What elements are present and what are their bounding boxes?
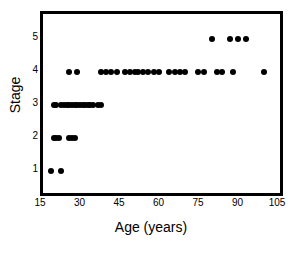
x-axis-tick-labels: 153045607590105 <box>40 197 283 211</box>
plot-canvas <box>43 14 280 193</box>
x-tick-label: 75 <box>192 197 203 209</box>
data-point <box>230 69 236 75</box>
data-point <box>72 135 78 141</box>
data-point <box>201 69 207 75</box>
x-tick-label: 30 <box>74 197 85 209</box>
x-tick-label: 45 <box>113 197 124 209</box>
data-point <box>58 168 64 174</box>
y-axis-title: Stage <box>7 55 23 135</box>
data-point <box>219 69 225 75</box>
data-point <box>209 36 215 42</box>
data-point <box>66 69 72 75</box>
data-point <box>48 168 54 174</box>
data-point <box>227 36 233 42</box>
x-tick-label: 15 <box>34 197 45 209</box>
data-point <box>261 69 267 75</box>
data-point <box>182 69 188 75</box>
scatter-plot-figure: 153045607590105 12345 Age (years) Stage <box>0 0 302 253</box>
y-tick-label: 5 <box>20 30 38 41</box>
data-point <box>243 36 249 42</box>
data-point <box>74 69 80 75</box>
x-tick-label: 105 <box>269 197 286 209</box>
data-point <box>235 36 241 42</box>
data-point <box>56 135 62 141</box>
data-point <box>98 102 104 108</box>
x-axis-title: Age (years) <box>0 219 302 235</box>
x-tick-label: 90 <box>232 197 243 209</box>
x-tick-label: 60 <box>153 197 164 209</box>
data-point <box>114 69 120 75</box>
y-tick-label: 1 <box>20 163 38 174</box>
data-point <box>156 69 162 75</box>
plot-frame <box>40 11 283 196</box>
